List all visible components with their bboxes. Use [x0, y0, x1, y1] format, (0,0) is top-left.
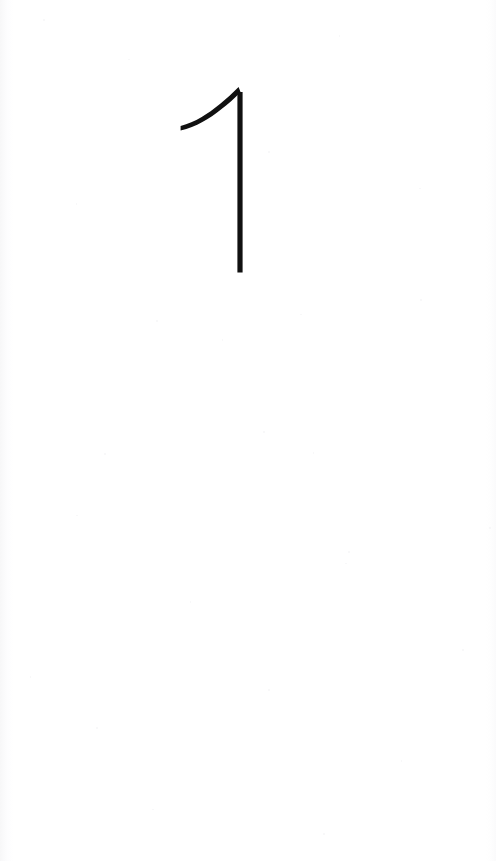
scanned-page: 1: [0, 0, 496, 861]
chapter-numeral-1-icon: [0, 0, 496, 320]
numeral-flag-path: [181, 87, 241, 131]
numeral-stem-path: [237, 92, 242, 272]
chapter-number-block: 1: [0, 0, 496, 320]
